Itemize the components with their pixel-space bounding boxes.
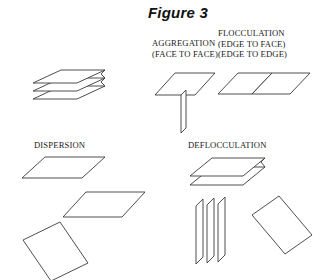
deflocculation-group bbox=[190, 158, 312, 264]
flocculation-caption-line-2: (EDGE TO FACE) bbox=[218, 39, 287, 50]
deflocculation-upright-plate-3 bbox=[218, 197, 225, 262]
aggregation-caption: AGGREGATION (FACE TO FACE) bbox=[152, 38, 218, 59]
deflocculation-upright-plate-2 bbox=[207, 198, 214, 263]
dispersion-group bbox=[22, 157, 145, 280]
flocculation-caption-line-1: FLOCCULATION bbox=[218, 28, 287, 39]
dispersion-plate-1 bbox=[22, 157, 105, 178]
aggregation-caption-line-1: AGGREGATION bbox=[152, 38, 218, 49]
dispersion-plate-2 bbox=[63, 192, 145, 217]
dispersion-caption: DISPERSION bbox=[34, 140, 85, 150]
flocculation-caption-line-3: (EDGE TO EDGE) bbox=[218, 49, 287, 60]
edge-to-face-group bbox=[155, 73, 215, 133]
edge-to-face-vertical-plate bbox=[181, 90, 186, 133]
aggregation-caption-line-2: (FACE TO FACE) bbox=[152, 49, 218, 60]
deflocculation-caption: DEFLOCCULATION bbox=[188, 140, 267, 150]
figure-title: Figure 3 bbox=[148, 4, 208, 21]
deflocculation-upright-plate-1 bbox=[196, 199, 203, 264]
deflocculation-tilted-plate bbox=[252, 196, 312, 254]
flocculation-caption: FLOCCULATION (EDGE TO FACE) (EDGE TO EDG… bbox=[218, 28, 287, 60]
aggregation-plate-stack bbox=[33, 70, 105, 99]
dispersion-plate-3 bbox=[23, 222, 88, 280]
figure-diagram: Figure 3 AGGREGATION (FACE TO FACE) FLOC… bbox=[0, 0, 323, 280]
edge-to-edge-group bbox=[218, 73, 310, 94]
